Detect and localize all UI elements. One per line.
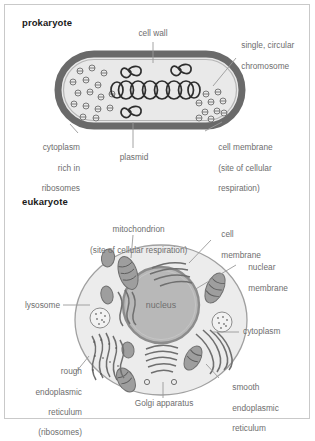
label-chromosome: single, circular chromosome (232, 30, 314, 81)
label-smooth-er-line1: smooth (232, 382, 259, 392)
label-chromosome-line2: chromosome (241, 61, 289, 71)
label-nuclear-membrane-line1: nuclear (248, 262, 275, 272)
label-golgi-apparatus: Golgi apparatus (118, 398, 210, 408)
label-cell-membrane-line3: respiration) (218, 183, 260, 193)
label-nucleus: nucleus (131, 300, 191, 310)
label-cell-membrane-prokaryote: cell membrane (site of cellular respirat… (209, 132, 309, 203)
label-chromosome-line1: single, circular (241, 40, 294, 50)
label-rough-er-line4: (ribosomes) (38, 427, 82, 437)
label-cell-membrane-line1: cell membrane (218, 142, 272, 152)
label-nuclear-membrane-line2: membrane (248, 283, 288, 293)
label-plasmid: plasmid (108, 152, 160, 162)
label-cytoplasm-line3: ribosomes (42, 183, 80, 193)
label-cell-membrane-line2: (site of cellular (218, 163, 272, 173)
label-mitochondrion-line1: mitochondrion (113, 224, 165, 234)
label-rough-er: rough endoplasmic reticulum (ribosomes) (4, 356, 82, 441)
label-smooth-er-line3: reticulum (232, 423, 266, 433)
label-nuclear-membrane: nuclear membrane (239, 252, 313, 303)
label-cell-membrane-euk-line1: cell (221, 229, 233, 239)
label-mitochondrion-line2: (site of cellular respiration) (90, 245, 187, 255)
label-cytoplasm-line2: rich in (58, 163, 80, 173)
label-rough-er-line2: endoplasmic (35, 387, 82, 397)
section-title-prokaryote: prokaryote (22, 17, 72, 28)
label-rough-er-line3: reticulum (48, 407, 82, 417)
label-lysosome: lysosome (6, 300, 60, 310)
label-rough-er-line1: rough (61, 366, 82, 376)
label-smooth-er: smooth endoplasmic reticulum (223, 372, 309, 441)
label-cytoplasm-line1: cytoplasm (43, 142, 80, 152)
label-smooth-er-line2: endoplasmic (232, 403, 279, 413)
label-cytoplasm-eukaryote: cytoplasm (243, 326, 309, 336)
label-mitochondrion: mitochondrion (site of cellular respirat… (64, 214, 204, 265)
label-cell-wall: cell wall (118, 28, 188, 38)
label-cytoplasm-ribosomes: cytoplasm rich in ribosomes (8, 132, 80, 203)
